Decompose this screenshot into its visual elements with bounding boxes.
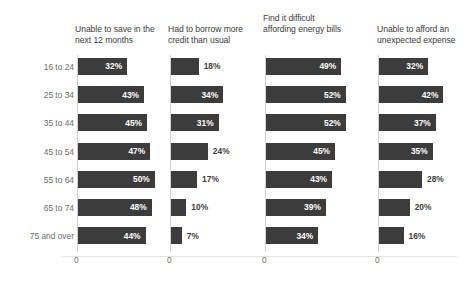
bar-row: 43%	[78, 86, 168, 103]
bar-value-label: 16%	[409, 231, 426, 241]
bar-value-label: 48%	[78, 202, 147, 212]
bar	[379, 199, 410, 216]
bar-row: 42%	[379, 86, 469, 103]
bar	[171, 227, 182, 244]
bar-value-label: 44%	[78, 231, 141, 241]
bottom-divider	[62, 256, 457, 257]
panel-title-2: Find it difficult affording energy bills	[263, 13, 343, 36]
bar-row: 18%	[171, 58, 259, 75]
bar-row: 43%	[266, 171, 371, 188]
bar	[171, 58, 199, 75]
bar-value-label: 32%	[78, 61, 122, 71]
bar-value-label: 35%	[379, 146, 428, 156]
bar-row: 32%	[78, 58, 168, 75]
bar-value-label: 42%	[379, 90, 438, 100]
panel-1: 018%34%31%24%17%10%7%	[170, 55, 258, 255]
bar-row: 45%	[266, 143, 371, 160]
bar-value-label: 47%	[78, 146, 145, 156]
category-label: 65 to 74	[44, 203, 74, 213]
bar-value-label: 39%	[266, 202, 321, 212]
panel-0: 032%43%45%47%50%48%44%	[77, 55, 167, 255]
grouped-bar-chart: Unable to save in the next 12 months Had…	[0, 0, 471, 284]
bar-row: 35%	[379, 143, 469, 160]
bar-row: 52%	[266, 86, 371, 103]
bar-row: 31%	[171, 114, 259, 131]
bar-row: 24%	[171, 143, 259, 160]
bar	[379, 171, 422, 188]
panel-2: 049%52%52%45%43%39%34%	[265, 55, 370, 255]
bar	[171, 143, 208, 160]
bar-row: 28%	[379, 171, 469, 188]
bar-row: 50%	[78, 171, 168, 188]
category-label: 16 to 24	[44, 62, 74, 72]
bar-row: 34%	[266, 227, 371, 244]
bar-value-label: 43%	[266, 174, 327, 184]
bar-value-label: 28%	[427, 174, 444, 184]
bar-row: 39%	[266, 199, 371, 216]
bar-row: 52%	[266, 114, 371, 131]
bar-row: 17%	[171, 171, 259, 188]
bar-row: 16%	[379, 227, 469, 244]
bar-row: 37%	[379, 114, 469, 131]
bar-row: 45%	[78, 114, 168, 131]
category-label: 25 to 34	[44, 90, 74, 100]
bar-row: 7%	[171, 227, 259, 244]
panel-title-1: Had to borrow more credit than usual	[168, 24, 258, 47]
bar-value-label: 17%	[202, 174, 219, 184]
bar-row: 48%	[78, 199, 168, 216]
bar-value-label: 34%	[266, 231, 313, 241]
bar	[379, 227, 404, 244]
bar-value-label: 45%	[266, 146, 330, 156]
bar-value-label: 31%	[171, 118, 214, 128]
category-label: 75 and over	[30, 231, 74, 241]
bar-row: 49%	[266, 58, 371, 75]
bar-value-label: 50%	[78, 174, 150, 184]
bar-value-label: 37%	[379, 118, 431, 128]
bar-value-label: 49%	[266, 61, 336, 71]
bar-value-label: 20%	[415, 202, 432, 212]
bar-value-label: 18%	[204, 61, 221, 71]
bar	[171, 171, 197, 188]
bar-value-label: 24%	[213, 146, 230, 156]
bar-value-label: 52%	[266, 90, 341, 100]
bar-row: 32%	[379, 58, 469, 75]
panel-title-3: Unable to afford an unexpected expense	[377, 24, 469, 47]
bar-value-label: 43%	[78, 90, 139, 100]
bar-row: 44%	[78, 227, 168, 244]
category-label: 45 to 54	[44, 147, 74, 157]
bar	[171, 199, 186, 216]
bar-row: 10%	[171, 199, 259, 216]
bar-value-label: 32%	[379, 61, 423, 71]
bar-value-label: 45%	[78, 118, 142, 128]
category-label: 35 to 44	[44, 118, 74, 128]
bar-value-label: 7%	[187, 231, 199, 241]
bar-row: 20%	[379, 199, 469, 216]
panel-title-0: Unable to save in the next 12 months	[75, 24, 167, 47]
bar-row: 47%	[78, 143, 168, 160]
bar-value-label: 34%	[171, 90, 218, 100]
category-label: 55 to 64	[44, 175, 74, 185]
bar-value-label: 52%	[266, 118, 341, 128]
bar-row: 34%	[171, 86, 259, 103]
panel-3: 032%42%37%35%28%20%16%	[378, 55, 468, 255]
bar-value-label: 10%	[191, 202, 208, 212]
